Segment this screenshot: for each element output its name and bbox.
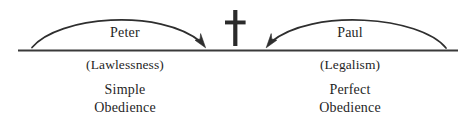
left-outcome-line-2: Obedience xyxy=(55,101,195,115)
left-paren-label: (Lawlessness) xyxy=(55,58,195,72)
right-arc-label: Paul xyxy=(310,26,390,40)
diagram-text-layer: Peter (Lawlessness) Simple Obedience Pau… xyxy=(0,0,472,124)
right-outcome-line-1: Perfect xyxy=(280,83,420,97)
right-outcome-line-2: Obedience xyxy=(280,101,420,115)
left-arc-label: Peter xyxy=(85,26,165,40)
left-outcome-line-1: Simple xyxy=(55,83,195,97)
diagram-canvas: Peter (Lawlessness) Simple Obedience Pau… xyxy=(0,0,472,124)
right-paren-label: (Legalism) xyxy=(280,58,420,72)
